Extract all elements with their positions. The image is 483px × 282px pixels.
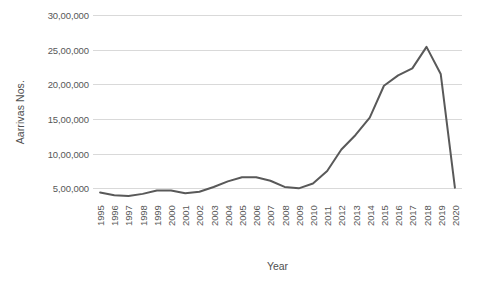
y-axis-title-label: Aarrivas Nos.	[14, 80, 26, 144]
x-axis-tick-label: 2002	[194, 205, 205, 226]
plot-area	[93, 15, 462, 223]
x-axis-tick-label: 2004	[222, 205, 233, 226]
series-layer	[93, 15, 462, 223]
x-axis-title: Year	[93, 260, 462, 272]
y-axis-tick-label: 10,00,000	[34, 148, 89, 159]
y-axis-tick-label: 20,00,000	[34, 79, 89, 90]
x-axis-tick-label: 2005	[237, 205, 248, 226]
y-axis-tick-label: 15,00,000	[34, 114, 89, 125]
y-axis-tick-label: 5,00,000	[34, 183, 89, 194]
x-axis-tick-label: 1995	[95, 205, 106, 226]
x-axis-tick-label: 2014	[364, 205, 375, 226]
x-axis-tick-label: 1996	[109, 205, 120, 226]
x-axis-tick-label: 2015	[378, 205, 389, 226]
x-axis-tick-label: 2009	[293, 205, 304, 226]
y-axis-tick-label: 30,00,000	[34, 10, 89, 21]
x-axis-tick-label: 2020	[449, 205, 460, 226]
x-axis-tick-label: 2012	[336, 205, 347, 226]
y-axis-title: Aarrivas Nos.	[6, 0, 34, 225]
x-axis-tick-label: 2010	[307, 205, 318, 226]
y-axis-tick-label: 25,00,000	[34, 44, 89, 55]
arrivals-line	[100, 47, 455, 196]
x-axis-tick-label: 2008	[279, 205, 290, 226]
x-axis-tick-label: 2016	[393, 205, 404, 226]
x-axis-tick-label: 2019	[435, 205, 446, 226]
x-axis-tick-label: 2003	[208, 205, 219, 226]
x-axis-tick-label: 2000	[166, 205, 177, 226]
x-axis-tick-label: 2007	[265, 205, 276, 226]
x-axis-tick-label: 2013	[350, 205, 361, 226]
x-axis-tick-label: 2011	[322, 206, 333, 226]
x-axis-tick-label: 1998	[137, 205, 148, 226]
x-axis-tick-label: 2017	[407, 205, 418, 226]
x-axis-tick-label: 2001	[180, 205, 191, 226]
line-chart: Aarrivas Nos. 5,00,00010,00,00015,00,000…	[0, 0, 483, 282]
y-axis-tick-labels: 5,00,00010,00,00015,00,00020,00,00025,00…	[34, 0, 89, 225]
x-axis-tick-label: 2018	[421, 205, 432, 226]
x-axis-tick-label: 1997	[123, 205, 134, 226]
x-axis-tick-labels: 1995199619971998199920002001200220032004…	[93, 226, 462, 258]
x-axis-tick-label: 1999	[151, 205, 162, 226]
x-axis-tick-label: 2006	[251, 205, 262, 226]
